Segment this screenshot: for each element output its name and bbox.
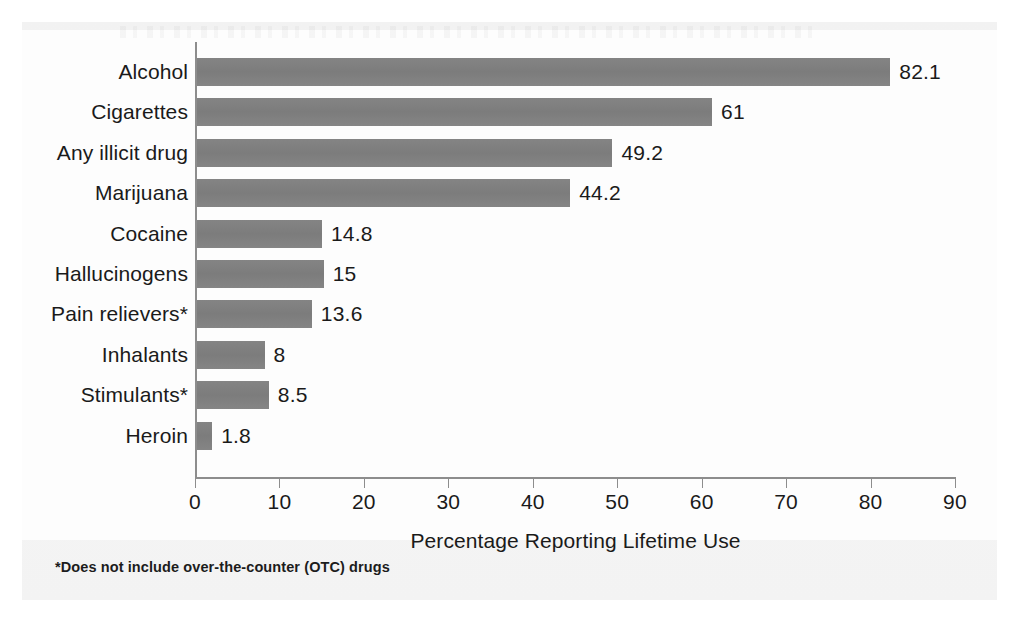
bar <box>197 58 890 86</box>
bar <box>197 98 712 126</box>
bar-row: Pain relievers*13.6 <box>0 294 1019 334</box>
x-axis-tick-label: 10 <box>268 490 292 514</box>
category-label: Heroin <box>126 424 188 448</box>
x-axis-tick <box>955 479 956 488</box>
figure-root: Alcohol82.1Cigarettes61Any illicit drug4… <box>0 0 1019 622</box>
bar-row: Stimulants*8.5 <box>0 375 1019 415</box>
bar-value-label: 49.2 <box>621 141 663 165</box>
bar-value-label: 61 <box>721 100 745 124</box>
category-label: Cigarettes <box>91 100 188 124</box>
x-axis-tick-label: 70 <box>774 490 798 514</box>
x-axis-tick <box>871 479 872 488</box>
x-axis-tick-label: 60 <box>690 490 714 514</box>
bar-value-label: 82.1 <box>899 60 941 84</box>
bar-row: Heroin1.8 <box>0 416 1019 456</box>
chart-footnote: *Does not include over-the-counter (OTC)… <box>55 559 390 575</box>
category-label: Pain relievers* <box>51 302 188 326</box>
x-axis-tick-label: 50 <box>605 490 629 514</box>
bar-row: Marijuana44.2 <box>0 173 1019 213</box>
bar-row: Inhalants8 <box>0 335 1019 375</box>
bar-value-label: 44.2 <box>579 181 621 205</box>
category-label: Stimulants* <box>81 383 188 407</box>
x-axis-tick-label: 40 <box>521 490 545 514</box>
bar <box>197 381 269 409</box>
bar <box>197 341 265 369</box>
bar-value-label: 8.5 <box>278 383 308 407</box>
bar-row: Hallucinogens15 <box>0 254 1019 294</box>
bar <box>197 300 312 328</box>
x-axis-tick-label: 30 <box>436 490 460 514</box>
category-label: Cocaine <box>110 222 188 246</box>
category-label: Marijuana <box>95 181 188 205</box>
x-axis-tick-label: 20 <box>352 490 376 514</box>
x-axis-tick <box>448 479 449 488</box>
bar <box>197 139 612 167</box>
x-axis-title: Percentage Reporting Lifetime Use <box>195 529 956 553</box>
x-axis-tick <box>702 479 703 488</box>
bar-value-label: 8 <box>274 343 286 367</box>
x-axis-tick-label: 90 <box>943 490 967 514</box>
bar <box>197 422 212 450</box>
bar-row: Any illicit drug49.2 <box>0 133 1019 173</box>
category-label: Any illicit drug <box>57 141 188 165</box>
x-axis-tick <box>786 479 787 488</box>
bar-row: Cigarettes61 <box>0 92 1019 132</box>
x-axis-tick-label: 80 <box>859 490 883 514</box>
bar <box>197 220 322 248</box>
bar-value-label: 1.8 <box>221 424 251 448</box>
category-label: Alcohol <box>118 60 188 84</box>
bar-row: Cocaine14.8 <box>0 214 1019 254</box>
x-axis-tick <box>617 479 618 488</box>
x-axis-tick <box>195 479 196 488</box>
bar <box>197 260 324 288</box>
x-axis-tick <box>279 479 280 488</box>
bar-row: Alcohol82.1 <box>0 52 1019 92</box>
bar-value-label: 14.8 <box>331 222 373 246</box>
bar-value-label: 15 <box>333 262 357 286</box>
x-axis-tick-label: 0 <box>189 490 201 514</box>
bar-value-label: 13.6 <box>321 302 363 326</box>
x-axis-tick <box>364 479 365 488</box>
bar-chart: Alcohol82.1Cigarettes61Any illicit drug4… <box>0 0 1019 622</box>
category-label: Hallucinogens <box>55 262 188 286</box>
x-axis-tick <box>533 479 534 488</box>
x-axis-line <box>195 477 956 479</box>
bar <box>197 179 570 207</box>
category-label: Inhalants <box>102 343 188 367</box>
